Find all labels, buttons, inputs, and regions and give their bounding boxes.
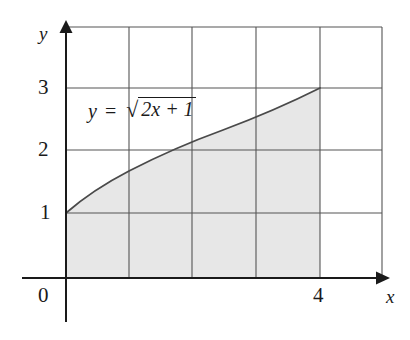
curve-equation-annotation: y = √2x + 1 xyxy=(88,96,196,121)
equation-radical: √2x + 1 xyxy=(124,96,195,120)
origin-tick-label-0: 0 xyxy=(38,285,49,306)
y-axis-tick-label-3: 3 xyxy=(38,77,49,98)
plot-canvas xyxy=(0,0,410,340)
y-axis-tick-label-2: 2 xyxy=(38,139,49,160)
equation-radicand: 2x + 1 xyxy=(138,97,195,119)
y-axis-tick-label-1: 1 xyxy=(40,202,51,223)
equation-equals-sign: = xyxy=(102,100,119,122)
square-root-icon: √ xyxy=(126,99,138,121)
y-axis-name-label: y xyxy=(39,24,47,43)
x-axis-arrowhead-icon xyxy=(376,272,390,285)
x-axis-tick-label-4: 4 xyxy=(313,285,324,306)
math-figure-area-under-curve: 3 2 1 0 4 y x y = √2x + 1 xyxy=(0,0,410,340)
x-axis-name-label: x xyxy=(386,287,394,306)
equation-lhs: y xyxy=(88,100,97,122)
